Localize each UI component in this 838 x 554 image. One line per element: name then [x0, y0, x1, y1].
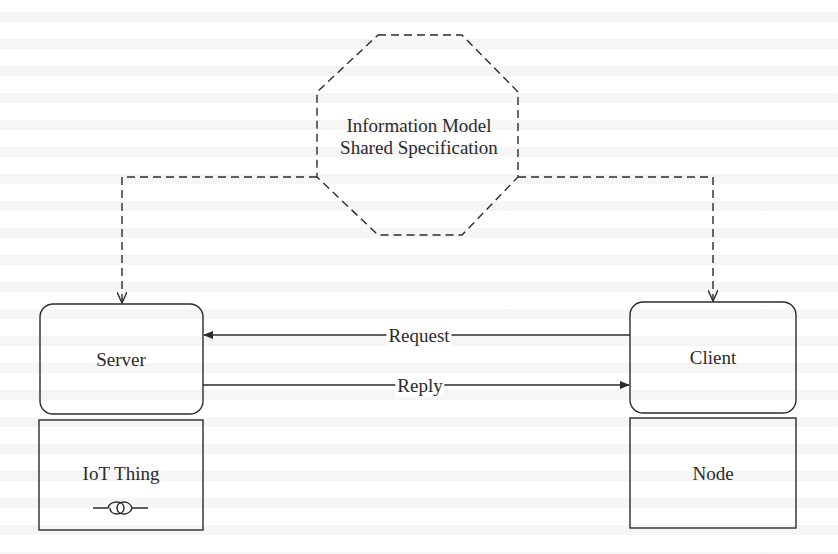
model-to-client-connector	[518, 177, 713, 301]
model-to-server-connector	[122, 177, 317, 303]
information-model-label: Information Model Shared Specification	[340, 115, 498, 159]
information-model-title: Information Model	[340, 115, 498, 137]
information-model-subtitle: Shared Specification	[340, 137, 498, 159]
request-label: Request	[386, 325, 451, 347]
node-label: Node	[692, 463, 733, 485]
sensor-symbol-icon	[93, 502, 148, 514]
iot-thing-label: IoT Thing	[83, 463, 160, 485]
reply-label: Reply	[395, 375, 444, 397]
client-label: Client	[690, 347, 736, 369]
server-label: Server	[96, 349, 146, 371]
